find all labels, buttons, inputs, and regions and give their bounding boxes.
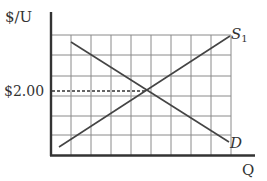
supply-demand-chart: $/U $2.00 Q S1 D — [0, 0, 267, 181]
price-label: $2.00 — [4, 83, 44, 99]
demand-label: D — [229, 134, 242, 152]
supply-label: S1 — [231, 25, 248, 44]
supply-label-sub: 1 — [241, 33, 247, 44]
supply-label-main: S — [231, 25, 241, 43]
demand-curve-d — [71, 42, 229, 142]
x-axis-label: Q — [242, 161, 254, 179]
y-axis-label: $/U — [5, 8, 32, 26]
